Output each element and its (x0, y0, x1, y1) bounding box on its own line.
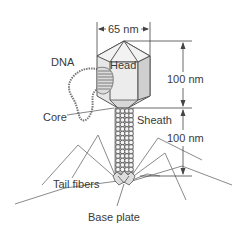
label-head-height: 100 nm (167, 74, 204, 85)
label-base-plate: Base plate (88, 212, 140, 223)
label-core: Core (43, 112, 67, 123)
base-plate (113, 171, 135, 185)
label-sheath: Sheath (137, 115, 172, 126)
label-head-width: 65 nm (108, 24, 139, 35)
label-tail-length: 100 nm (167, 133, 204, 144)
phage-diagram (0, 0, 244, 237)
label-tail-fibers: Tail fibers (53, 179, 99, 190)
label-dna: DNA (51, 57, 74, 68)
sheath (115, 108, 133, 174)
label-head: Head (110, 60, 136, 71)
dna-coil-in-head (97, 67, 113, 94)
